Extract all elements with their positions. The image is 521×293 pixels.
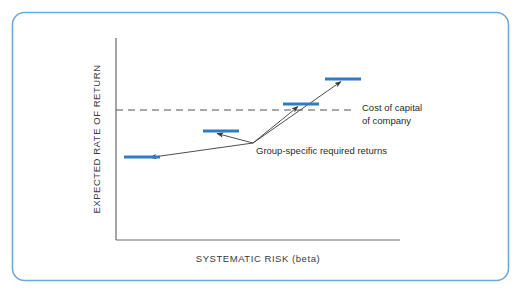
cost-of-capital-label-line1: Cost of capital xyxy=(362,102,422,113)
x-axis-label: SYSTEMATIC RISK (beta) xyxy=(196,253,320,264)
y-axis-label: EXPECTED RATE OF RETURN xyxy=(91,64,102,213)
arrow-to-bar-2 xyxy=(217,134,253,144)
group-specific-label: Group-specific required returns xyxy=(256,145,387,156)
chart-svg: EXPECTED RATE OF RETURN SYSTEMATIC RISK … xyxy=(0,0,521,293)
arrow-to-bar-3 xyxy=(253,107,298,144)
arrow-to-bar-4 xyxy=(253,82,341,144)
cost-of-capital-label-line2: of company xyxy=(362,115,411,126)
arrow-to-bar-1 xyxy=(150,143,253,158)
figure-container: EXPECTED RATE OF RETURN SYSTEMATIC RISK … xyxy=(0,0,521,293)
